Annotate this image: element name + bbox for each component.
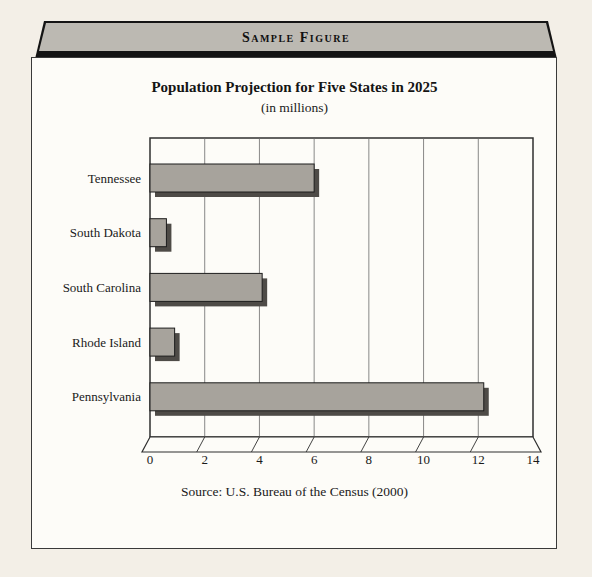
- x-tick-label-6: 6: [311, 452, 318, 467]
- sample-figure-banner: Sample Figure: [0, 0, 592, 64]
- source-note: Source: U.S. Bureau of the Census (2000): [31, 484, 558, 500]
- category-label-south-dakota: South Dakota: [70, 225, 141, 240]
- x-tick-label-2: 2: [201, 452, 208, 467]
- category-label-tennessee: Tennessee: [88, 171, 141, 186]
- category-label-rhode-island: Rhode Island: [72, 335, 141, 350]
- bar-rhode-island: [150, 328, 175, 356]
- axis-floor-3d: [142, 437, 541, 452]
- x-tick-label-8: 8: [366, 452, 373, 467]
- bar-south-dakota: [150, 219, 166, 247]
- x-tick-label-12: 12: [472, 452, 485, 467]
- chart-title: Population Projection for Five States in…: [31, 79, 558, 96]
- category-label-pennsylvania: Pennsylvania: [72, 389, 142, 404]
- x-tick-label-14: 14: [527, 452, 541, 467]
- chart-subtitle: (in millions): [31, 100, 558, 116]
- category-label-south-carolina: South Carolina: [63, 280, 142, 295]
- x-tick-label-4: 4: [256, 452, 263, 467]
- bar-chart: TennesseeSouth DakotaSouth CarolinaRhode…: [0, 130, 592, 476]
- banner-label: Sample Figure: [242, 30, 350, 45]
- bar-south-carolina: [150, 273, 262, 301]
- bar-pennsylvania: [150, 383, 484, 411]
- x-tick-label-0: 0: [147, 452, 154, 467]
- bar-tennessee: [150, 164, 314, 192]
- x-tick-label-10: 10: [417, 452, 430, 467]
